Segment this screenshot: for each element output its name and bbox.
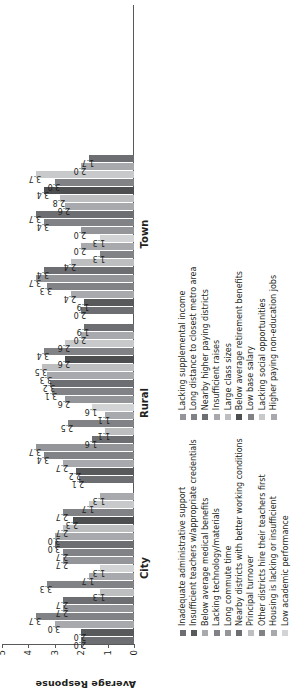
y-tick-label: 1 — [103, 650, 112, 670]
legend-item[interactable]: Nearby higher paying districts — [201, 267, 210, 421]
bar: 2.7 — [63, 605, 134, 612]
bar-value-label: 3.2 — [42, 384, 55, 392]
legend-item[interactable]: Below average retirement benefits — [235, 267, 244, 421]
legend-item[interactable]: Long commute time — [224, 438, 233, 636]
legend-item[interactable]: Long distance to closest metro area — [189, 267, 198, 421]
bar-value-label: 2.7 — [55, 529, 68, 537]
bar-value-label: 3.7 — [29, 448, 42, 456]
bar-value-label: 1.6 — [84, 408, 97, 416]
bar: 3.3 — [47, 372, 134, 379]
legend-item[interactable]: Large class sizes — [224, 267, 233, 421]
bar-value-label: 3.0 — [47, 183, 60, 191]
legend-item[interactable]: Inadequate administrative support — [178, 438, 187, 636]
bar: 1.3 — [100, 493, 134, 500]
bar: 3.0 — [55, 179, 134, 186]
legend-item-label: Nearby higher paying districts — [201, 289, 210, 410]
legend-swatch-icon — [202, 414, 208, 420]
bar: 1.7 — [89, 155, 134, 162]
bar-value-label: 3.7 — [29, 175, 42, 183]
rotated-chart-frame: Average Response 543210 2.02.03.03.72.72… — [0, 0, 273, 692]
legend-swatch-icon — [225, 630, 231, 636]
bar-value-label: 1.3 — [92, 497, 105, 505]
bar-value-label: 2.7 — [55, 601, 68, 609]
bar: 2.7 — [63, 460, 134, 467]
bar-value-label: 3.7 — [29, 617, 42, 625]
bar-value-label: 2.6 — [58, 360, 71, 368]
bar-value-label: 3.1 — [45, 392, 58, 400]
bar: 3.0 — [55, 541, 134, 548]
legend-swatch-icon — [248, 414, 254, 420]
bar-value-label: 2.6 — [58, 207, 71, 215]
bar-value-label: 2.0 — [74, 311, 87, 319]
legend-swatch-icon — [225, 414, 231, 420]
legend-swatch-icon — [191, 630, 197, 636]
bar-value-label: 3.5 — [34, 368, 47, 376]
legend-item-label: Lacking supplemental income — [178, 290, 187, 410]
bar: 1.3 — [100, 565, 134, 572]
bar: 1.9 — [84, 324, 134, 331]
y-tick-label: 0 — [130, 650, 139, 670]
bar: 3.1 — [52, 388, 134, 395]
bar-value-label: 3.7 — [29, 279, 42, 287]
legend-item[interactable]: Below average medical benefits — [201, 438, 210, 636]
bar-group-town: 2.01.92.43.33.73.42.41.32.01.32.03.43.72… — [2, 154, 134, 314]
bar: 3.4 — [44, 219, 134, 226]
bar-value-label: 2.7 — [55, 513, 68, 521]
bar-value-label: 1.1 — [98, 432, 111, 440]
legend-item[interactable]: Principal turnover — [246, 438, 255, 636]
legend-item[interactable]: Insufficient teachers w/appropriate cred… — [189, 438, 198, 636]
legend-item[interactable]: Lacking social opportunities — [258, 267, 267, 421]
bar: 2.0 — [81, 227, 134, 234]
bar: 2.7 — [63, 549, 134, 556]
legend-item[interactable]: Nearby districts with better working con… — [235, 438, 244, 636]
legend-swatch-icon — [180, 630, 186, 636]
bar-value-label: 3.4 — [37, 191, 50, 199]
bar-value-label: 2.6 — [58, 400, 71, 408]
legend-item-label: Lacking technology/materials — [212, 508, 221, 626]
legend-item[interactable]: Lacking supplemental income — [178, 267, 187, 421]
group-label-town: Town — [139, 154, 150, 314]
chart-canvas: Average Response 543210 2.02.03.03.72.72… — [0, 0, 273, 692]
bar: 3.4 — [44, 452, 134, 459]
legend-column-2: Lacking supplemental incomeLong distance… — [178, 267, 273, 421]
bar-value-label: 2.0 — [74, 247, 87, 255]
bar-value-label: 1.3 — [92, 239, 105, 247]
legend-swatch-icon — [271, 630, 273, 636]
bar-value-label: 3.7 — [29, 215, 42, 223]
bar: 1.3 — [100, 589, 134, 596]
bar-value-label: 1.3 — [92, 593, 105, 601]
bar-value-label: 1.3 — [92, 255, 105, 263]
legend-item[interactable]: Other districts hire their teachers firs… — [258, 438, 267, 636]
legend-item[interactable]: Higher paying non-education jobs — [269, 267, 273, 421]
y-tick-label: 5 — [0, 650, 6, 670]
bar: 2.6 — [65, 356, 134, 363]
bar: 2.6 — [65, 396, 134, 403]
y-axis-ticks: 543210 — [2, 644, 134, 670]
bar: 1.1 — [105, 428, 134, 435]
legend-item[interactable]: Housing is lacking or insufficient — [269, 438, 273, 636]
bar-group-city: 2.02.03.03.72.72.71.33.31.71.32.72.73.03… — [2, 492, 134, 644]
bar: 2.1 — [79, 476, 134, 483]
bar: 3.2 — [50, 380, 135, 387]
legend-item[interactable]: Insufficient raises — [212, 267, 221, 421]
legend-item-label: Higher paying non-education jobs — [269, 275, 273, 410]
legend-swatch-icon — [236, 414, 242, 420]
bar: 2.7 — [63, 557, 134, 564]
legend-item[interactable]: Low base salary — [246, 267, 255, 421]
bar: 2.0 — [81, 243, 134, 250]
legend-item[interactable]: Lacking technology/materials — [212, 438, 221, 636]
bar-value-label: 2.0 — [74, 633, 87, 641]
bar-value-label: 3.0 — [47, 625, 60, 633]
bar: 3.7 — [36, 613, 134, 620]
bar-value-label: 1.9 — [76, 303, 89, 311]
bar-value-label: 1.7 — [82, 505, 95, 513]
y-tick-label: 4 — [24, 650, 33, 670]
legend-item-label: Large class sizes — [224, 343, 233, 410]
legend-swatch-icon — [214, 414, 220, 420]
legend-item-label: Insufficient raises — [212, 340, 221, 410]
bar-value-label: 1.7 — [82, 577, 95, 585]
bar-value-label: 2.4 — [63, 263, 76, 271]
bar-value-label: 3.3 — [40, 287, 53, 295]
bar-value-label: 2.8 — [53, 199, 66, 207]
bar-value-label: 3.4 — [37, 352, 50, 360]
